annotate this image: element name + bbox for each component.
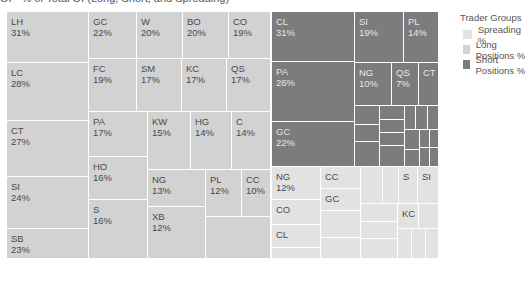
treemap-cell[interactable]: SI24%	[7, 177, 89, 229]
treemap-cell[interactable]: KC17%	[182, 59, 227, 112]
treemap-cell[interactable]: SI19%	[355, 12, 404, 63]
cell-value: 31%	[11, 27, 88, 38]
treemap-cell[interactable]: CO	[272, 200, 321, 225]
treemap-cell[interactable]	[405, 150, 420, 167]
cell-value: 19%	[233, 27, 270, 38]
cell-value: 28%	[11, 78, 88, 89]
treemap-cell[interactable]	[412, 229, 426, 259]
treemap-cell[interactable]	[321, 238, 361, 259]
treemap-cell[interactable]: CC10%	[242, 170, 271, 217]
treemap-cell[interactable]: CL	[272, 225, 321, 248]
treemap-cell[interactable]: XB12%	[148, 207, 206, 259]
legend: Trader Groups Spreading % Long Positions…	[460, 12, 530, 72]
treemap-cell[interactable]: NG10%	[355, 63, 392, 106]
treemap-cell[interactable]: KC	[398, 204, 419, 229]
legend-title: Trader Groups	[460, 12, 530, 23]
treemap-cell[interactable]: W20%	[137, 12, 183, 59]
cell-label: CT	[423, 67, 438, 78]
cell-label: CL	[276, 16, 354, 27]
treemap-cell[interactable]: CO19%	[229, 12, 271, 59]
cell-label: PL	[408, 16, 438, 27]
treemap-cell[interactable]: NG13%	[148, 170, 206, 207]
cell-value: 15%	[152, 127, 190, 138]
cell-value: 12%	[210, 185, 241, 196]
cell-label: CC	[325, 171, 360, 182]
cell-label: CC	[246, 174, 270, 185]
treemap-cell[interactable]: GC22%	[89, 12, 137, 59]
treemap-cell[interactable]	[206, 217, 271, 259]
treemap-cell[interactable]: SI	[418, 167, 439, 204]
cell-label: S	[403, 171, 417, 182]
treemap-cell[interactable]: PL12%	[206, 170, 242, 217]
treemap-cell[interactable]	[380, 120, 405, 133]
treemap-cell[interactable]	[398, 229, 412, 259]
treemap-cell[interactable]	[355, 142, 380, 167]
treemap-cell[interactable]	[361, 204, 398, 222]
treemap-cell[interactable]	[430, 130, 439, 148]
treemap-cell[interactable]: GC22%	[272, 122, 355, 167]
treemap-cell[interactable]: S16%	[89, 200, 148, 259]
cell-value: 19%	[93, 74, 136, 85]
treemap-cell[interactable]: LH31%	[7, 12, 89, 63]
treemap-cell[interactable]: QS17%	[227, 59, 271, 112]
cell-label: BO	[187, 16, 228, 27]
treemap-cell[interactable]: BO20%	[183, 12, 229, 59]
cell-value: 27%	[11, 136, 88, 147]
treemap-cell[interactable]	[380, 106, 405, 120]
treemap-cell[interactable]	[419, 204, 439, 229]
treemap-cell[interactable]: C14%	[232, 112, 271, 170]
treemap-cell[interactable]: GC	[321, 189, 361, 211]
treemap-cell[interactable]: CT	[419, 63, 439, 106]
cell-value: 17%	[93, 127, 147, 138]
cell-value: 16%	[93, 215, 147, 226]
treemap-cell[interactable]	[428, 106, 439, 130]
cell-value: 17%	[141, 74, 181, 85]
treemap-cell[interactable]	[405, 130, 420, 150]
treemap-cell[interactable]: PL14%	[404, 12, 439, 63]
treemap-cell[interactable]: S	[399, 167, 418, 204]
cell-value: 22%	[276, 137, 354, 148]
cell-label: C	[236, 116, 270, 127]
cell-value: 12%	[152, 222, 205, 233]
cell-label: W	[141, 16, 182, 27]
treemap-cell[interactable]	[321, 211, 361, 238]
treemap-cell[interactable]	[355, 125, 380, 142]
treemap-cell[interactable]: KW15%	[148, 112, 191, 170]
cell-value: 14%	[236, 127, 270, 138]
cell-value: 20%	[187, 27, 228, 38]
treemap-cell[interactable]	[416, 106, 428, 130]
treemap-cell[interactable]: CT27%	[7, 121, 89, 177]
cell-label: CL	[276, 229, 320, 240]
treemap-cell[interactable]: PA17%	[89, 112, 148, 157]
treemap-cell[interactable]: HO16%	[89, 157, 148, 200]
treemap-cell[interactable]: PA26%	[272, 62, 355, 122]
treemap-cell[interactable]	[361, 239, 398, 259]
cell-value: 10%	[246, 185, 270, 196]
legend-swatch	[463, 45, 470, 54]
cell-value: 12%	[276, 182, 320, 193]
treemap-cell[interactable]: FC19%	[89, 59, 137, 112]
treemap-cell[interactable]: SM17%	[137, 59, 182, 112]
treemap-cell[interactable]: LC28%	[7, 63, 89, 121]
treemap-cell[interactable]	[355, 106, 380, 125]
legend-item-short[interactable]: Short Positions %	[460, 57, 530, 72]
treemap-cell[interactable]	[380, 146, 405, 167]
treemap-cell[interactable]	[272, 248, 321, 259]
treemap-cell[interactable]: HG14%	[191, 112, 232, 170]
treemap-cell[interactable]	[420, 130, 430, 148]
treemap-cell[interactable]	[383, 167, 399, 204]
treemap-cell[interactable]: CC	[321, 167, 361, 189]
treemap-cell[interactable]: CL31%	[272, 12, 355, 62]
cell-label: NG	[359, 67, 391, 78]
treemap-cell[interactable]	[380, 133, 405, 146]
treemap-cell[interactable]	[430, 148, 439, 167]
treemap-cell[interactable]: NG12%	[272, 167, 321, 200]
treemap-cell[interactable]	[361, 222, 398, 239]
treemap-cell[interactable]	[420, 148, 430, 167]
treemap-cell[interactable]	[361, 167, 383, 204]
cell-label: GC	[276, 126, 354, 137]
treemap-cell[interactable]	[405, 106, 416, 130]
treemap-cell[interactable]: QS7%	[392, 63, 419, 106]
treemap-cell[interactable]	[426, 229, 439, 259]
treemap-cell[interactable]: SB23%	[7, 229, 89, 259]
